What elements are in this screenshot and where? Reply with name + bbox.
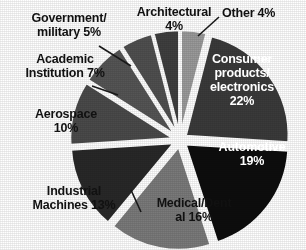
slice-label-consumer-products-electronics: Consumer products/ electronics 22%: [196, 52, 288, 108]
slice-label-industrial-machines: Industrial Machines 13%: [6, 185, 142, 212]
pie-chart: Government/ military 5% Architectural 4%…: [0, 0, 306, 250]
slice-label-academic-institution: Academic Institution 7%: [4, 53, 126, 80]
slice-label-automotive: Automotive 19%: [206, 140, 298, 168]
slice-label-aerospace: Aerospace 10%: [14, 108, 118, 135]
slice-label-other: Other 4%: [222, 7, 294, 21]
slice-label-architectural: Architectural 4%: [126, 6, 222, 33]
slice-label-government-military: Government/ military 5%: [10, 12, 128, 39]
slice-label-medical-dental: Medical/Dent al 16%: [148, 196, 240, 224]
